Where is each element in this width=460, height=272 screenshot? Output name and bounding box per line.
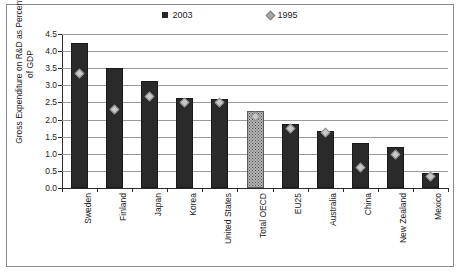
bar-slot[interactable] — [422, 34, 439, 188]
x-tick-label: China — [364, 193, 373, 215]
y-tick-label: 3.5 — [45, 64, 57, 73]
x-tick-label: Finland — [119, 193, 128, 221]
x-tick-mark — [413, 188, 414, 192]
bar-slot[interactable] — [211, 34, 228, 188]
x-tick-mark — [62, 188, 63, 192]
bar-slot[interactable] — [282, 34, 299, 188]
bar-slot[interactable] — [141, 34, 158, 188]
bar-2003[interactable] — [211, 99, 228, 188]
y-axis-title: Gross Expenditure on R&D as Percentage o… — [14, 0, 38, 144]
x-tick-mark — [237, 188, 238, 192]
legend-item-1995: 1995 — [267, 10, 298, 20]
bar-2003[interactable] — [71, 43, 88, 188]
x-axis-labels: SwedenFinlandJapanKoreaUnited StatesTota… — [62, 193, 448, 267]
bar-2003[interactable] — [106, 68, 123, 188]
x-axis-line — [62, 188, 448, 189]
figure-border-right — [453, 4, 454, 267]
y-tick-label: 2.5 — [45, 98, 57, 107]
figure-border-top — [6, 4, 454, 5]
bar-2003[interactable] — [247, 111, 264, 188]
bar-2003[interactable] — [176, 98, 193, 188]
y-tick-label: 2.0 — [45, 115, 57, 124]
bar-2003[interactable] — [282, 124, 299, 188]
y-tick-label: 0.0 — [45, 184, 57, 193]
x-tick-label: United States — [224, 193, 233, 244]
x-tick-mark — [97, 188, 98, 192]
x-tick-mark — [308, 188, 309, 192]
legend-item-2003: 2003 — [162, 10, 192, 20]
plot-area: 0.00.51.01.52.02.53.03.54.04.5 — [62, 34, 448, 188]
x-tick-label: Mexico — [434, 193, 443, 220]
y-tick-label: 3.0 — [45, 81, 57, 90]
x-tick-mark — [202, 188, 203, 192]
x-tick-mark — [343, 188, 344, 192]
x-tick-label: Korea — [189, 193, 198, 216]
x-tick-label: New Zealand — [399, 193, 408, 243]
figure-border-left — [6, 4, 7, 267]
x-tick-mark — [132, 188, 133, 192]
bar-slot[interactable] — [71, 34, 88, 188]
bar-slot[interactable] — [317, 34, 334, 188]
bar-slot[interactable] — [176, 34, 193, 188]
x-tick-label: Japan — [154, 193, 163, 216]
y-tick-label: 4.0 — [45, 47, 57, 56]
y-tick-label: 4.5 — [45, 30, 57, 39]
y-tick-label: 0.5 — [45, 166, 57, 175]
legend-label-2003: 2003 — [172, 10, 192, 20]
bar-group — [62, 34, 448, 188]
x-tick-label: Sweden — [84, 193, 93, 224]
x-tick-mark — [448, 188, 449, 192]
chart-figure: 2003 1995 Gross Expenditure on R&D as Pe… — [0, 0, 460, 272]
chart-legend: 2003 1995 — [0, 10, 460, 20]
x-tick-label: Australia — [329, 193, 338, 226]
x-tick-mark — [273, 188, 274, 192]
filled-square-icon — [162, 12, 168, 18]
bar-slot[interactable] — [387, 34, 404, 188]
x-tick-mark — [167, 188, 168, 192]
y-tick-label: 1.0 — [45, 149, 57, 158]
diamond-icon — [265, 10, 275, 20]
x-tick-label: Total OECD — [259, 193, 268, 238]
x-tick-label: EU25 — [294, 193, 303, 214]
x-tick-mark — [378, 188, 379, 192]
y-tick-label: 1.5 — [45, 132, 57, 141]
bar-2003[interactable] — [317, 131, 334, 188]
legend-label-1995: 1995 — [278, 10, 298, 20]
